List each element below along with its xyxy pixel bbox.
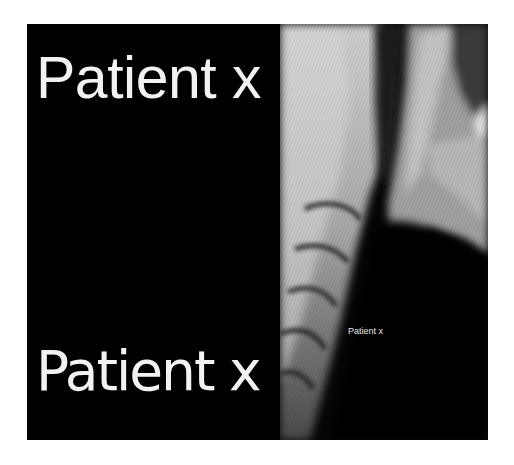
patient-label-top: Patient x [36,38,261,118]
figure-panel: Patient x Patient x [27,24,488,440]
patient-label-bottom: Patient x [36,331,260,411]
label-panel: Patient x Patient x [27,24,280,440]
xray-illustration [280,24,488,440]
xray-image: Patient x [280,24,488,440]
xray-patient-label: Patient x [348,326,383,336]
